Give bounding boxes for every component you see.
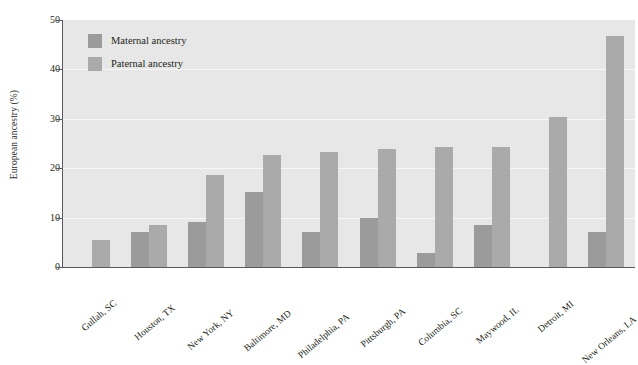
bar-paternal xyxy=(435,147,453,267)
x-axis-line xyxy=(62,267,635,268)
x-tick-label: New York, NY xyxy=(186,308,236,352)
y-tick-label: 50 xyxy=(22,14,60,26)
bar-group xyxy=(235,20,292,267)
legend-label-paternal: Paternal ancestry xyxy=(111,58,183,69)
bar-maternal xyxy=(474,225,492,267)
bar-maternal xyxy=(131,232,149,267)
bar-paternal xyxy=(92,240,110,267)
x-tick-label: Philadelphia, PA xyxy=(297,312,352,360)
bar-group xyxy=(521,20,578,267)
x-tick-label: Maywood, IL xyxy=(474,305,520,346)
bar-maternal xyxy=(188,222,206,267)
bar-group xyxy=(463,20,520,267)
bar-paternal xyxy=(320,152,338,267)
bar-paternal xyxy=(549,117,567,267)
bar-paternal xyxy=(378,149,396,267)
bar-paternal xyxy=(149,225,167,267)
y-axis-title-text: European ancestry (%) xyxy=(9,90,19,179)
x-tick-label: Columbia, SC xyxy=(416,306,464,348)
chart-legend: Maternal ancestry Paternal ancestry xyxy=(88,33,187,79)
bar-group xyxy=(349,20,406,267)
x-tick-label: Gullah, SC xyxy=(79,298,118,333)
y-tick-label: 30 xyxy=(22,113,60,125)
y-tick-label: 0 xyxy=(22,261,60,273)
legend-label-maternal: Maternal ancestry xyxy=(111,35,187,46)
x-tick-label: Houston, TX xyxy=(132,303,176,342)
bar-group xyxy=(406,20,463,267)
bar-maternal xyxy=(245,192,263,267)
x-tick-label: Detroit, MI xyxy=(536,299,576,334)
bar-paternal xyxy=(206,175,224,267)
bar-paternal xyxy=(492,147,510,267)
x-tick-label: New Orleans, LA xyxy=(581,314,638,365)
bar-maternal xyxy=(417,253,435,267)
bar-maternal xyxy=(360,218,378,267)
legend-swatch-maternal xyxy=(88,34,102,48)
y-tick-label: 20 xyxy=(22,162,60,174)
legend-item: Paternal ancestry xyxy=(88,56,187,71)
y-tick-label: 40 xyxy=(22,63,60,75)
bar-maternal xyxy=(302,232,320,267)
x-tick-label: Baltimore, MD xyxy=(242,308,293,353)
bar-group xyxy=(292,20,349,267)
y-tick-label: 10 xyxy=(22,212,60,224)
x-tick-label: Pittsburgh, PA xyxy=(358,306,407,349)
bar-paternal xyxy=(263,155,281,267)
bar-paternal xyxy=(606,36,624,267)
bar-group xyxy=(578,20,635,267)
legend-swatch-paternal xyxy=(88,57,102,71)
y-axis-title: European ancestry (%) xyxy=(4,0,24,270)
legend-item: Maternal ancestry xyxy=(88,33,187,48)
bar-maternal xyxy=(588,232,606,267)
